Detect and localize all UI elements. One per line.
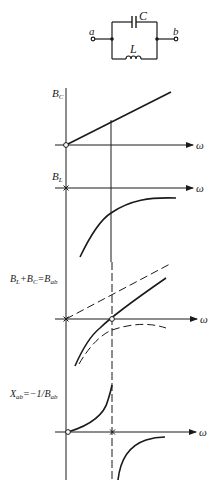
x-axis-label: ω <box>196 182 204 194</box>
capacitor-icon <box>132 16 136 28</box>
ylabel: BL+BC=Bab <box>10 273 58 286</box>
plot-bab: BL+BC=Bab ω <box>10 264 208 366</box>
ylabel-sub: C <box>59 93 64 101</box>
bl-curve <box>80 198 176 257</box>
bc-dashed-curve <box>66 264 170 319</box>
zero-marker-icon <box>64 143 69 148</box>
svg-text:BC: BC <box>52 87 64 101</box>
inductor-label: L <box>129 42 137 56</box>
diagram-canvas: a b C L BC ω BL ω <box>0 0 219 489</box>
capacitor-label: C <box>139 9 148 23</box>
ylabel: Xab=−1/Bab <box>9 388 58 401</box>
x-axis-label: ω <box>200 313 208 325</box>
inductor-icon <box>126 56 141 59</box>
xab-curve-left <box>68 385 112 432</box>
bl-dashed-curve <box>79 324 166 364</box>
xab-curve-right <box>118 437 165 480</box>
zero-marker-icon <box>66 430 71 435</box>
terminal-a-label: a <box>89 25 95 37</box>
zero-marker-icon <box>110 317 115 322</box>
terminal-b-label: b <box>173 25 179 37</box>
bc-curve <box>66 92 171 145</box>
plot-bl: BL ω <box>52 170 204 257</box>
plot-xab: Xab=−1/Bab ω <box>9 385 207 480</box>
plot-bc: BC ω <box>52 87 204 151</box>
x-axis-label: ω <box>196 139 204 151</box>
terminal-b-icon <box>174 37 178 41</box>
svg-text:BL: BL <box>52 170 63 184</box>
bab-curve <box>75 278 166 366</box>
ylabel-sub: L <box>58 176 63 184</box>
terminal-a-icon <box>91 37 95 41</box>
x-axis-label: ω <box>199 426 207 438</box>
